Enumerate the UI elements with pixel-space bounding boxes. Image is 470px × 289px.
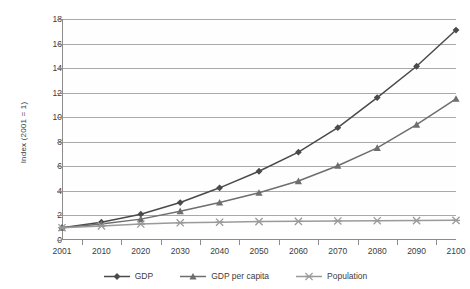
x-tick-label: 2070 (318, 247, 358, 256)
x-tick-mark (318, 240, 319, 245)
data-point-marker (452, 95, 459, 102)
data-point-marker (373, 217, 381, 224)
x-tick-label: 2030 (160, 247, 200, 256)
line-chart: Index (2001 = 1) 024681012141618 2001201… (0, 0, 470, 289)
data-point-marker (215, 219, 223, 226)
data-point-marker (295, 149, 302, 156)
y-tick-label: 0 (8, 236, 62, 245)
x-tick-label: 2090 (397, 247, 437, 256)
data-point-marker (452, 217, 460, 224)
chart-legend: GDPGDP per capitaPopulation (0, 266, 470, 286)
y-tick-label: 4 (8, 187, 62, 196)
x-tick-mark (436, 240, 437, 245)
x-tick-mark (397, 240, 398, 245)
data-point-marker (413, 121, 420, 128)
data-point-marker (216, 184, 223, 191)
data-point-marker (334, 217, 342, 224)
y-tick-label: 6 (8, 162, 62, 171)
x-tick-label: 2050 (239, 247, 279, 256)
legend-label: Population (327, 272, 367, 281)
data-point-marker (374, 144, 381, 151)
x-tick-label: 2020 (121, 247, 161, 256)
data-point-marker (177, 199, 184, 206)
data-point-marker (176, 219, 184, 226)
y-tick-label: 2 (8, 211, 62, 220)
data-point-marker (256, 168, 263, 175)
series-line (62, 30, 456, 228)
series-layer (62, 19, 456, 240)
legend-marker-diamond-icon (103, 271, 131, 282)
x-tick-mark (358, 240, 359, 245)
data-point-marker (334, 162, 341, 169)
x-tick-mark (200, 240, 201, 245)
data-point-marker (412, 217, 420, 224)
x-tick-label: 2080 (357, 247, 397, 256)
x-tick-mark (239, 240, 240, 245)
legend-label: GDP (135, 272, 153, 281)
y-tick-label: 8 (8, 138, 62, 147)
series-line (62, 99, 456, 228)
series-gdp (59, 27, 460, 231)
y-tick-label: 10 (8, 113, 62, 122)
legend-item-population[interactable]: Population (295, 271, 367, 282)
series-gdp-per-capita (58, 95, 459, 231)
x-tick-label: 2060 (278, 247, 318, 256)
legend-label: GDP per capita (211, 272, 269, 281)
y-axis-ticks: 024681012141618 (0, 19, 62, 240)
y-tick-label: 12 (8, 88, 62, 97)
x-tick-mark (161, 240, 162, 245)
x-tick-label: 2040 (200, 247, 240, 256)
x-tick-mark (121, 240, 122, 245)
data-point-marker (255, 218, 263, 225)
y-tick-label: 18 (8, 15, 62, 24)
x-tick-label: 2001 (42, 247, 82, 256)
legend-marker-triangle-icon (179, 271, 207, 282)
x-tick-mark (279, 240, 280, 245)
x-axis-ticks: 2001201020202030204020502060207020802090… (62, 240, 456, 264)
x-tick-label: 2100 (436, 247, 470, 256)
legend-item-gdp-per-capita[interactable]: GDP per capita (179, 271, 269, 282)
y-tick-label: 16 (8, 39, 62, 48)
x-tick-mark (82, 240, 83, 245)
y-tick-label: 14 (8, 64, 62, 73)
legend-marker-star-icon (295, 271, 323, 282)
legend-item-gdp[interactable]: GDP (103, 271, 153, 282)
data-point-marker (294, 218, 302, 225)
x-tick-label: 2010 (81, 247, 121, 256)
